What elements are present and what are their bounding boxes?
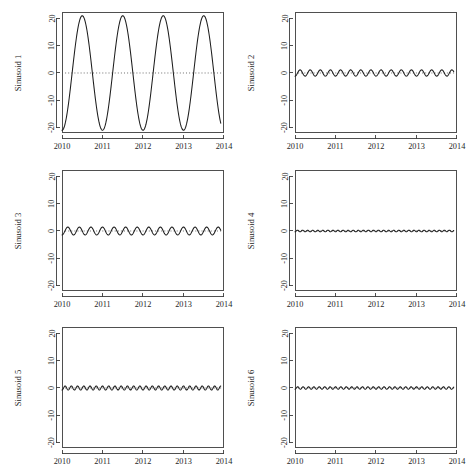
x-tick-label: 2011 (94, 457, 110, 466)
x-tick-label: 2011 (94, 142, 110, 151)
y-tick-label: -10 (48, 252, 57, 263)
x-tick-label: 2012 (368, 300, 385, 309)
y-tick-label: 20 (281, 172, 290, 180)
y-tick-label: 10 (48, 199, 57, 207)
series-line-2 (295, 70, 454, 76)
y-tick-label: 10 (48, 42, 57, 50)
x-tick-label: 2013 (175, 457, 192, 466)
panel-sinusoid-4: -20-100102020102011201220132014Sinusoid … (233, 158, 466, 316)
x-tick-label: 2014 (449, 300, 466, 309)
y-tick-label: 10 (281, 42, 290, 50)
y-tick-label: -10 (48, 95, 57, 106)
plot-area-sinusoid-1: -20-100102020102011201220132014Sinusoid … (0, 0, 233, 158)
y-tick-label: 0 (281, 71, 290, 75)
series-line-5 (62, 386, 221, 390)
y-tick-label: -10 (281, 95, 290, 106)
x-tick-label: 2011 (94, 300, 110, 309)
y-tick-label: 0 (48, 229, 57, 233)
y-axis-title: Sinusoid 1 (13, 55, 23, 91)
x-tick-label: 2012 (368, 142, 385, 151)
y-axis-title: Sinusoid 5 (13, 370, 23, 406)
x-tick-label: 2010 (54, 457, 71, 466)
series-line-1 (62, 16, 221, 131)
y-tick-label: 0 (48, 386, 57, 390)
y-tick-label: 10 (48, 357, 57, 365)
y-tick-label: 20 (48, 172, 57, 180)
x-tick-label: 2014 (449, 457, 466, 466)
panel-sinusoid-6: -20-100102020102011201220132014Sinusoid … (233, 315, 466, 473)
x-tick-label: 2012 (135, 142, 152, 151)
plot-area-sinusoid-4: -20-100102020102011201220132014Sinusoid … (233, 158, 466, 316)
x-tick-label: 2011 (327, 142, 343, 151)
panel-sinusoid-1: -20-100102020102011201220132014Sinusoid … (0, 0, 233, 158)
x-tick-label: 2014 (216, 457, 233, 466)
plot-area-sinusoid-6: -20-100102020102011201220132014Sinusoid … (233, 315, 466, 473)
x-tick-label: 2011 (327, 457, 343, 466)
y-tick-label: -20 (281, 437, 290, 448)
series-line-4 (295, 230, 454, 232)
plot-area-sinusoid-5: -20-100102020102011201220132014Sinusoid … (0, 315, 233, 473)
x-tick-label: 2012 (135, 300, 152, 309)
panel-sinusoid-5: -20-100102020102011201220132014Sinusoid … (0, 315, 233, 473)
panel-sinusoid-2: -20-100102020102011201220132014Sinusoid … (233, 0, 466, 158)
x-tick-label: 2013 (408, 457, 425, 466)
y-axis-title: Sinusoid 4 (246, 212, 256, 249)
y-tick-label: -20 (281, 280, 290, 291)
y-tick-label: 10 (281, 199, 290, 207)
x-tick-label: 2012 (135, 457, 152, 466)
x-tick-label: 2010 (287, 457, 304, 466)
y-tick-label: -10 (281, 252, 290, 263)
x-tick-label: 2014 (216, 142, 233, 151)
y-tick-label: -10 (48, 410, 57, 421)
x-tick-label: 2010 (287, 142, 304, 151)
x-tick-label: 2012 (368, 457, 385, 466)
sinusoid-panel-figure: -20-100102020102011201220132014Sinusoid … (0, 0, 466, 473)
y-tick-label: 20 (48, 330, 57, 338)
y-tick-label: 20 (281, 330, 290, 338)
x-tick-label: 2014 (449, 142, 466, 151)
y-tick-label: 0 (281, 229, 290, 233)
y-tick-label: 10 (281, 357, 290, 365)
y-axis-title: Sinusoid 2 (246, 55, 256, 91)
y-tick-label: 20 (281, 14, 290, 22)
y-tick-label: -20 (48, 280, 57, 291)
x-tick-label: 2013 (175, 142, 192, 151)
x-tick-label: 2014 (216, 300, 233, 309)
y-tick-label: 20 (48, 14, 57, 22)
y-axis-title: Sinusoid 6 (246, 369, 256, 406)
x-tick-label: 2011 (327, 300, 343, 309)
y-tick-label: 0 (281, 386, 290, 390)
y-tick-label: -20 (281, 122, 290, 133)
x-tick-label: 2013 (408, 142, 425, 151)
y-tick-label: -20 (48, 122, 57, 133)
series-line-6 (295, 387, 454, 389)
series-line-3 (62, 227, 221, 235)
y-tick-label: 0 (48, 71, 57, 75)
y-tick-label: -10 (281, 410, 290, 421)
y-tick-label: -20 (48, 437, 57, 448)
x-tick-label: 2010 (287, 300, 304, 309)
panel-sinusoid-3: -20-100102020102011201220132014Sinusoid … (0, 158, 233, 316)
plot-area-sinusoid-2: -20-100102020102011201220132014Sinusoid … (233, 0, 466, 158)
x-tick-label: 2013 (175, 300, 192, 309)
y-axis-title: Sinusoid 3 (13, 212, 23, 248)
x-tick-label: 2010 (54, 142, 71, 151)
plot-area-sinusoid-3: -20-100102020102011201220132014Sinusoid … (0, 158, 233, 316)
x-tick-label: 2013 (408, 300, 425, 309)
x-tick-label: 2010 (54, 300, 71, 309)
